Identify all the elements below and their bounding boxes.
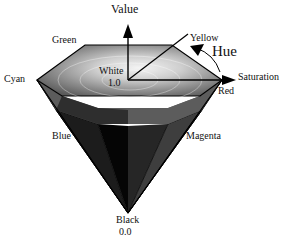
hue-label: Hue <box>212 44 237 59</box>
white-value: 1.0 <box>108 78 121 88</box>
yellow-label: Yellow <box>190 33 218 43</box>
saturation-arrow-icon <box>222 75 236 85</box>
saturation-label: Saturation <box>238 72 279 82</box>
white-label: White <box>99 66 123 76</box>
magenta-label: Magenta <box>186 131 221 141</box>
value-arrow-icon <box>123 24 133 38</box>
red-label: Red <box>218 86 234 96</box>
hsv-hexcone-diagram: Value Yellow Hue Green Cyan Saturation R… <box>0 0 301 240</box>
blue-label: Blue <box>52 131 71 141</box>
black-value: 0.0 <box>119 227 132 237</box>
green-label: Green <box>52 35 76 45</box>
black-label: Black <box>116 215 139 225</box>
value-axis-label: Value <box>111 3 138 15</box>
hexcone-graphic <box>0 0 301 240</box>
cyan-label: Cyan <box>4 74 25 84</box>
